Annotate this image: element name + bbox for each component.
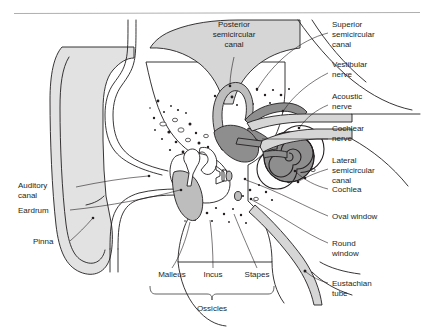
label-auditory-line2: canal	[18, 191, 37, 200]
label-auditory-canal: Auditory canal	[18, 181, 47, 200]
label-round-line1: Round	[332, 239, 356, 248]
label-lateral-line3: canal	[332, 176, 351, 185]
label-vestibular-nerve: Vestibular nerve	[332, 60, 367, 79]
label-ossicles: Ossicles	[197, 304, 227, 313]
label-eardrum: Eardrum	[18, 206, 49, 215]
label-round-window: Round window	[331, 239, 359, 258]
label-posterior-line3: canal	[224, 40, 243, 49]
label-superior-line1: Superior	[332, 20, 363, 29]
label-incus: Incus	[203, 270, 222, 279]
label-stapes: Stapes	[245, 270, 270, 279]
label-eustachian-line1: Eustachian	[332, 279, 372, 288]
ear-anatomy-diagram: Posterior semicircular canal Superior se…	[0, 0, 434, 327]
label-acoustic-line1: Acoustic	[332, 92, 362, 101]
label-round-line2: window	[331, 249, 359, 258]
label-vestibular-line2: nerve	[332, 70, 353, 79]
label-posterior-line1: Posterior	[218, 20, 250, 29]
label-auditory-line1: Auditory	[18, 181, 47, 190]
label-lateral-line1: Lateral	[332, 156, 357, 165]
label-cochlear-line2: nerve	[332, 134, 353, 143]
label-lateral-line2: semicircular	[332, 166, 375, 175]
label-posterior-line2: semicircular	[213, 30, 256, 39]
label-cochlear-nerve: Cochlear nerve	[332, 124, 364, 143]
label-pinna: Pinna	[33, 237, 54, 246]
ear-anatomy-figure: Posterior semicircular canal Superior se…	[0, 0, 434, 327]
label-superior-line3: canal	[332, 40, 351, 49]
label-cochlear-line1: Cochlear	[332, 124, 364, 133]
pinna-structure	[50, 47, 134, 274]
label-acoustic-nerve: Acoustic nerve	[332, 92, 362, 111]
label-eustachian-line2: tube	[332, 289, 348, 298]
label-cochlea: Cochlea	[332, 185, 362, 194]
label-malleus: Malleus	[158, 270, 186, 279]
label-lateral-semicircular-canal: Lateral semicircular canal	[332, 156, 375, 185]
label-acoustic-line2: nerve	[332, 102, 353, 111]
ossicles-brace	[150, 286, 274, 300]
label-superior-line2: semicircular	[332, 30, 375, 39]
label-vestibular-line1: Vestibular	[332, 60, 367, 69]
label-superior-semicircular-canal: Superior semicircular canal	[332, 20, 375, 49]
label-oval-window: Oval window	[332, 212, 378, 221]
top-divider-rule	[14, 13, 420, 14]
